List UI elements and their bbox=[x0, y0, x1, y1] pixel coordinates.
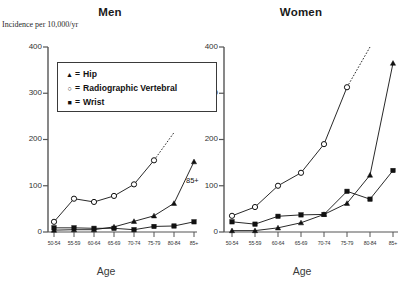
y-tick-label-400: 400 bbox=[18, 42, 42, 51]
y-tick-label-100: 100 bbox=[18, 181, 42, 190]
x-tick-label-women-6: 80-84 bbox=[360, 240, 380, 246]
y-tick-label-0: 0 bbox=[18, 227, 42, 236]
x-axis-caption-men: Age bbox=[0, 265, 202, 277]
data-point-radiographic-vertebral-75-79 bbox=[151, 158, 156, 163]
triangle-marker-icon: ▲ bbox=[64, 71, 75, 78]
series-line-radiographic-vertebral bbox=[54, 160, 154, 222]
data-point-radiographic-vertebral-65-69 bbox=[111, 193, 116, 198]
filled-square-marker-icon: ■ bbox=[64, 99, 75, 106]
x-tick-label-men-3: 65-69 bbox=[104, 240, 124, 246]
x-tick-label-men-5: 75-79 bbox=[144, 240, 164, 246]
data-point-radiographic-vertebral-75-79 bbox=[344, 85, 349, 90]
chart-panel-men: Men Incidence per 10,000/yr 400 300 bbox=[0, 0, 202, 283]
x-tick-label-women-4: 70-74 bbox=[314, 240, 334, 246]
data-point-wrist-70-74 bbox=[132, 227, 136, 231]
x-tick-label-men-6: 80-84 bbox=[164, 240, 184, 246]
x-tick-label-men-1: 55-59 bbox=[64, 240, 84, 246]
data-point-wrist-85+ bbox=[192, 220, 196, 224]
y-tick-label-200: 200 bbox=[18, 134, 42, 143]
x-tick-label-women-1: 55-59 bbox=[245, 240, 265, 246]
series-group-women bbox=[229, 47, 395, 233]
legend-equals-1: = bbox=[75, 83, 80, 93]
data-point-radiographic-vertebral-55-59 bbox=[71, 196, 76, 201]
data-point-wrist-60-64 bbox=[276, 214, 280, 218]
data-point-wrist-55-59 bbox=[253, 222, 257, 226]
legend: ▲ = Hip ○ = Radiographic Vertebral ■ = W… bbox=[57, 62, 217, 112]
legend-item-hip: ▲ = Hip bbox=[64, 67, 216, 81]
legend-equals-0: = bbox=[75, 69, 80, 79]
y-tick-label-w-200: 200 bbox=[194, 134, 218, 143]
data-point-radiographic-vertebral-70-74 bbox=[131, 182, 136, 187]
data-point-radiographic-vertebral-60-64 bbox=[275, 183, 280, 188]
x-axis-caption-women: Age bbox=[202, 265, 404, 277]
legend-label-radiographic-vertebral: Radiographic Vertebral bbox=[83, 83, 177, 93]
series-line-radiographic-vertebral bbox=[232, 87, 347, 216]
data-point-wrist-80-84 bbox=[368, 197, 372, 201]
legend-label-hip: Hip bbox=[83, 69, 97, 79]
data-point-radiographic-vertebral-65-69 bbox=[298, 170, 303, 175]
data-point-radiographic-vertebral-60-64 bbox=[91, 199, 96, 204]
data-point-wrist-65-69 bbox=[299, 213, 303, 217]
legend-label-wrist: Wrist bbox=[83, 97, 104, 107]
x-tick-label-men-0: 50-54 bbox=[44, 240, 64, 246]
osteoporosis-incidence-figure: Men Incidence per 10,000/yr 400 300 bbox=[0, 0, 404, 283]
x-tick-label-men-2: 60-64 bbox=[84, 240, 104, 246]
data-point-radiographic-vertebral-70-74 bbox=[321, 142, 326, 147]
y-tick-label-w-400: 400 bbox=[194, 42, 218, 51]
data-point-wrist-65-69 bbox=[112, 226, 116, 230]
y-tick-label-w-100: 100 bbox=[194, 181, 218, 190]
data-point-wrist-50-54 bbox=[52, 226, 56, 230]
legend-item-wrist: ■ = Wrist bbox=[64, 95, 216, 109]
x-tick-label-women-5: 75-79 bbox=[337, 240, 357, 246]
data-point-wrist-70-74 bbox=[322, 212, 326, 216]
series-extrapolation-radiographic-vertebral bbox=[347, 47, 370, 87]
legend-item-radiographic-vertebral: ○ = Radiographic Vertebral bbox=[64, 81, 216, 95]
data-point-radiographic-vertebral-50-54 bbox=[51, 219, 56, 224]
data-point-hip-80-84 bbox=[367, 173, 372, 178]
open-circle-marker-icon: ○ bbox=[64, 85, 75, 92]
series-group-men bbox=[51, 133, 196, 233]
x-tick-label-women-3: 65-69 bbox=[291, 240, 311, 246]
x-tick-label-men-4: 70-74 bbox=[124, 240, 144, 246]
data-point-wrist-80-84 bbox=[172, 224, 176, 228]
data-point-hip-80-84 bbox=[171, 201, 176, 206]
data-point-radiographic-vertebral-50-54 bbox=[229, 213, 234, 218]
x-tick-label-women-0: 50-54 bbox=[222, 240, 242, 246]
data-point-hip-75-79 bbox=[151, 213, 156, 218]
x-tick-label-men-7: 85+ bbox=[184, 240, 204, 246]
y-tick-label-300: 300 bbox=[18, 88, 42, 97]
data-point-wrist-60-64 bbox=[92, 226, 96, 230]
legend-equals-2: = bbox=[75, 97, 80, 107]
data-point-radiographic-vertebral-55-59 bbox=[252, 204, 257, 209]
x-tick-label-women-2: 60-64 bbox=[268, 240, 288, 246]
data-point-wrist-85+ bbox=[391, 168, 395, 172]
series-extrapolation-radiographic-vertebral bbox=[154, 133, 174, 161]
x-tick-label-women-7: 85+ bbox=[383, 240, 403, 246]
data-point-wrist-75-79 bbox=[152, 224, 156, 228]
chart-panel-women: Women 400 300 200 100 0 50-54 55-59 60-6… bbox=[202, 0, 404, 283]
data-point-wrist-55-59 bbox=[72, 226, 76, 230]
data-point-hip-85+ bbox=[191, 159, 196, 164]
data-point-wrist-75-79 bbox=[345, 189, 349, 193]
data-point-wrist-50-54 bbox=[230, 220, 234, 224]
y-tick-label-w-0: 0 bbox=[194, 227, 218, 236]
data-point-hip-85+ bbox=[390, 61, 395, 66]
